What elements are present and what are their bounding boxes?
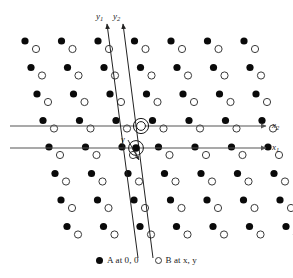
atom-a <box>246 223 253 230</box>
atom-a <box>246 64 253 71</box>
atom-a <box>64 64 71 71</box>
atom-a <box>58 37 65 44</box>
atom-a <box>258 117 265 124</box>
atom-a <box>264 143 271 150</box>
atom-b <box>172 178 179 185</box>
atom-b <box>74 231 81 238</box>
atom-a <box>63 223 70 230</box>
atom-a <box>118 143 125 150</box>
atom-a <box>27 64 34 71</box>
atom-b <box>166 151 173 158</box>
atom-b <box>141 204 148 211</box>
legend-item-b: B at x, y <box>155 255 197 265</box>
atom-a <box>234 170 241 177</box>
atom-b <box>99 178 106 185</box>
atom-b <box>148 72 155 79</box>
annotation-label-y-offset: y <box>121 135 125 144</box>
atom-a <box>131 37 138 44</box>
atom-b <box>142 45 149 52</box>
origin-b-inner-ring <box>137 122 146 131</box>
atom-a <box>100 223 107 230</box>
atom-b <box>154 98 161 105</box>
atom-b <box>38 72 45 79</box>
atom-a <box>185 117 192 124</box>
atom-a <box>45 143 52 150</box>
lattice-diagram-figure: x2 x1 y1 y2 y A at 0, 0 B at x, y <box>0 0 293 278</box>
atom-a <box>106 90 113 97</box>
atom-a <box>136 223 143 230</box>
atom-a <box>21 37 28 44</box>
atom-b <box>245 178 252 185</box>
origin-a-dot <box>132 144 140 152</box>
atom-a <box>94 196 101 203</box>
atom-b <box>287 204 293 211</box>
filled-circle-icon <box>96 257 103 264</box>
atom-b <box>184 72 191 79</box>
atom-a <box>210 64 217 71</box>
atom-a <box>94 37 101 44</box>
atom-a <box>88 170 95 177</box>
atom-b <box>215 45 222 52</box>
atom-b <box>184 231 191 238</box>
atom-b <box>93 151 100 158</box>
atom-a <box>167 37 174 44</box>
atom-a <box>270 170 277 177</box>
atom-a <box>228 143 235 150</box>
atom-a <box>39 117 46 124</box>
atom-a <box>51 170 58 177</box>
origin-markers-group <box>128 118 149 160</box>
atom-a <box>276 196 283 203</box>
atom-a <box>173 223 180 230</box>
atom-a <box>137 64 144 71</box>
atom-a <box>112 117 119 124</box>
atom-a <box>209 223 216 230</box>
atom-a <box>203 196 210 203</box>
axis-label-y1: y1 <box>96 12 103 21</box>
atom-b <box>208 178 215 185</box>
legend-label-a: A at 0, 0 <box>107 255 138 265</box>
atom-b <box>227 98 234 105</box>
atom-b <box>68 204 75 211</box>
atom-a <box>222 117 229 124</box>
figure-legend: A at 0, 0 B at x, y <box>0 255 293 265</box>
atom-b <box>178 45 185 52</box>
legend-item-a: A at 0, 0 <box>96 255 138 265</box>
atom-a <box>76 117 83 124</box>
atom-b <box>111 231 118 238</box>
atom-a <box>240 196 247 203</box>
atom-a <box>204 37 211 44</box>
atom-b <box>220 231 227 238</box>
atom-b <box>135 178 142 185</box>
atom-b <box>147 231 154 238</box>
atom-a <box>191 143 198 150</box>
atom-a <box>179 90 186 97</box>
atom-a <box>173 64 180 71</box>
atom-a <box>57 196 64 203</box>
atom-b <box>239 151 246 158</box>
atom-a <box>240 37 247 44</box>
atom-a <box>149 117 156 124</box>
open-circle-icon <box>155 257 162 264</box>
atom-b <box>105 45 112 52</box>
atom-a <box>155 143 162 150</box>
atom-b <box>221 72 228 79</box>
atom-a <box>130 196 137 203</box>
atom-b <box>75 72 82 79</box>
atom-b <box>214 204 221 211</box>
atom-a <box>216 90 223 97</box>
atom-a <box>282 223 289 230</box>
atom-a <box>197 170 204 177</box>
atom-a <box>124 170 131 177</box>
atom-a <box>252 90 259 97</box>
atom-a <box>167 196 174 203</box>
atom-b <box>281 178 288 185</box>
atom-b <box>263 98 270 105</box>
atom-b <box>257 231 264 238</box>
atom-a <box>143 90 150 97</box>
axis-label-x2: x2 <box>272 121 279 130</box>
atom-b <box>111 72 118 79</box>
atom-a <box>100 64 107 71</box>
atom-b <box>62 178 69 185</box>
atom-a <box>70 90 77 97</box>
atom-b <box>44 98 51 105</box>
